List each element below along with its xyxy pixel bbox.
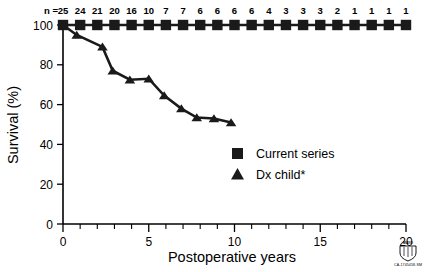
data-point-square (161, 20, 171, 30)
data-point-square (109, 20, 119, 30)
legend-triangle-icon (231, 168, 244, 180)
risk-table-value: 7 (180, 5, 185, 16)
y-tick-label: 60 (40, 98, 54, 112)
risk-table-value: 21 (92, 5, 103, 16)
x-tick-label: 5 (145, 235, 152, 249)
y-axis-title: Survival (%) (5, 86, 21, 164)
x-axis-title: Postoperative years (168, 249, 296, 265)
mayo-logo-wordmark: MAYO (403, 241, 413, 245)
y-tick-label: 80 (40, 58, 54, 72)
data-point-square (195, 20, 205, 30)
risk-table-value: 1 (369, 5, 375, 16)
data-point-square (92, 20, 102, 30)
data-point-square (144, 20, 154, 30)
survival-chart-svg: n = 252421201610776666433321111 02040608… (0, 0, 427, 272)
risk-table-value: 3 (283, 5, 288, 16)
risk-table-value: 10 (143, 5, 154, 16)
data-point-square (246, 20, 256, 30)
y-tick-label: 20 (40, 178, 54, 192)
data-point-square (298, 20, 308, 30)
data-point-square (126, 20, 136, 30)
risk-table-value: 3 (300, 5, 305, 16)
x-tick-label: 15 (314, 235, 328, 249)
risk-table-value: 16 (126, 5, 137, 16)
legend-square-icon (232, 148, 243, 159)
data-point-square (75, 20, 85, 30)
risk-table-label: n = (44, 5, 58, 16)
data-point-square (212, 20, 222, 30)
risk-table-value: 2 (335, 5, 340, 16)
risk-table-value: 6 (198, 5, 203, 16)
data-point-square (401, 20, 411, 30)
risk-table-value: 6 (232, 5, 237, 16)
legend-label-dx-child: Dx child* (256, 168, 305, 182)
series-dx-child (58, 21, 237, 127)
credit-code: CA-1745458-SM (394, 263, 422, 267)
x-tick-label: 0 (60, 235, 67, 249)
x-tick-label: 10 (228, 235, 242, 249)
risk-table-value: 1 (386, 5, 392, 16)
data-point-square (349, 20, 359, 30)
data-point-square (281, 20, 291, 30)
risk-table-value: 25 (58, 5, 69, 16)
risk-table-value: 24 (75, 5, 86, 16)
series-line (63, 25, 231, 123)
series-current-series (58, 20, 411, 30)
data-point-square (367, 20, 377, 30)
risk-table-value: 6 (215, 5, 220, 16)
risk-table-value: 1 (403, 5, 409, 16)
risk-table-value: 6 (249, 5, 254, 16)
legend-label-current-series: Current series (256, 147, 335, 161)
risk-table-value: 20 (109, 5, 120, 16)
data-point-triangle (107, 66, 118, 74)
y-tick-label: 100 (33, 19, 53, 33)
data-point-square (178, 20, 188, 30)
survival-chart-figure: n = 252421201610776666433321111 02040608… (0, 0, 427, 272)
y-axis-ticks: 020406080100 (33, 19, 63, 232)
risk-table-value: 7 (163, 5, 168, 16)
risk-table-value: 4 (266, 5, 272, 16)
risk-table-value: 3 (318, 5, 323, 16)
risk-table-value: 1 (352, 5, 358, 16)
chart-legend: Current series Dx child* (231, 147, 335, 182)
risk-table: 252421201610776666433321111 (58, 5, 410, 16)
data-point-square (315, 20, 325, 30)
data-point-square (332, 20, 342, 30)
y-tick-label: 0 (46, 218, 53, 232)
x-axis-ticks: 05101520 (60, 224, 413, 249)
mayo-clinic-logo: MAYO CA-1745458-SM (394, 241, 422, 267)
data-point-square (229, 20, 239, 30)
data-point-square (384, 20, 394, 30)
data-point-square (264, 20, 274, 30)
y-tick-label: 40 (40, 138, 54, 152)
